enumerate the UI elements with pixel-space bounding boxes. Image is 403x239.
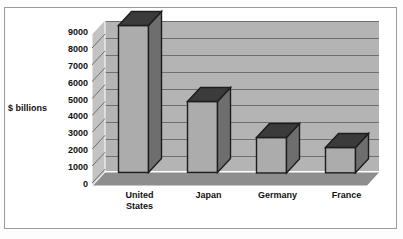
x-axis-category-line: States [100, 201, 180, 212]
y-axis-tick-label: 3000 [48, 129, 88, 138]
x-axis-category-label: Germany [238, 190, 318, 201]
bar-front-face [119, 26, 149, 173]
chart-figure: $ billions 90008000700060005000400030002… [0, 0, 403, 239]
y-axis-tick-label: 7000 [48, 62, 88, 71]
y-axis-tick-label: 6000 [48, 79, 88, 88]
y-axis-tick-label: 5000 [48, 96, 88, 105]
bar-front-face [326, 147, 356, 172]
y-axis-tick-label: 4000 [48, 112, 88, 121]
y-axis-tick-label: 1000 [48, 163, 88, 172]
bar-column [118, 11, 161, 172]
y-axis-tick-label: 8000 [48, 45, 88, 54]
x-axis-category-line: United [100, 190, 180, 201]
x-axis-category-line: Japan [169, 190, 249, 201]
bar-side-face [149, 12, 162, 173]
bar-front-face [257, 137, 287, 172]
bar-column [325, 133, 368, 172]
bar-front-face [188, 102, 218, 173]
y-axis-ticks: 9000800070006000500040003000200010000 [48, 18, 88, 188]
y-axis-tick-label: 2000 [48, 146, 88, 155]
bar-column [256, 123, 299, 172]
x-axis-category-label: UnitedStates [100, 190, 180, 212]
plot-area [92, 20, 380, 186]
x-axis-category-line: Germany [238, 190, 318, 201]
y-axis-tick-label: 9000 [48, 28, 88, 37]
x-axis-category-label: Japan [169, 190, 249, 201]
x-axis-category-line: France [307, 190, 387, 201]
y-axis-tick-label: 0 [48, 180, 88, 189]
bar-column [187, 87, 230, 172]
x-axis-categories: UnitedStatesJapanGermanyFrance [92, 190, 380, 230]
x-axis-category-label: France [307, 190, 387, 201]
